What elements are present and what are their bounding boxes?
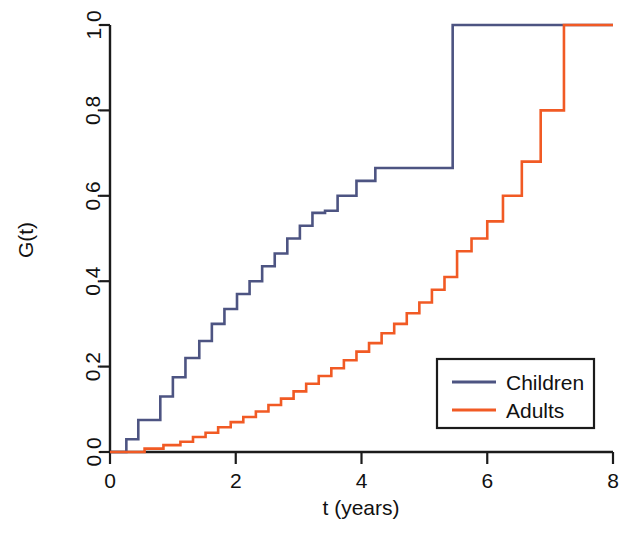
x-axis-ticks: 02468 (104, 452, 619, 492)
y-tick-label: 0.6 (82, 181, 105, 210)
chart-container: 0.00.20.40.60.81.0 02468 t (years) G(t) … (0, 0, 638, 535)
y-tick-label: 0.8 (82, 96, 105, 125)
y-tick-label: 0.4 (82, 266, 105, 296)
ecdf-step-plot: 0.00.20.40.60.81.0 02468 t (years) G(t) … (0, 0, 638, 535)
x-axis-title: t (years) (322, 496, 399, 519)
x-tick-label: 0 (104, 469, 116, 492)
legend-label-adults: Adults (506, 399, 564, 422)
legend[interactable]: Children Adults (437, 359, 594, 428)
x-tick-label: 2 (230, 469, 242, 492)
legend-label-children: Children (506, 371, 584, 394)
x-tick-label: 4 (356, 469, 368, 492)
x-tick-label: 8 (607, 469, 619, 492)
x-tick-label: 6 (481, 469, 493, 492)
y-tick-label: 0.0 (82, 437, 105, 466)
y-tick-label: 0.2 (82, 352, 105, 381)
y-axis-title: G(t) (14, 222, 37, 258)
y-axis-ticks: 0.00.20.40.60.81.0 (82, 10, 111, 466)
y-tick-label: 1.0 (82, 10, 105, 39)
